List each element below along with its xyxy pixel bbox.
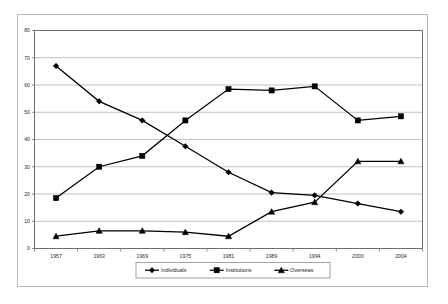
data-point-marker <box>226 86 231 91</box>
series-individuals <box>53 63 403 214</box>
chart-legend: IndividualsInstitutionsOverseas <box>136 263 330 279</box>
series-layer <box>53 63 404 239</box>
data-point-marker <box>312 84 317 89</box>
y-tick-label: 0 <box>27 245 30 251</box>
y-tick-label: 50 <box>24 109 30 115</box>
data-point-marker <box>214 268 219 273</box>
data-point-marker <box>139 118 145 124</box>
series-institutions <box>53 84 403 201</box>
line-chart: 01020304050607080 1957196319691975198119… <box>0 0 448 304</box>
data-point-marker <box>226 169 232 175</box>
x-tick-label: 1981 <box>223 253 235 259</box>
legend-item-institutions[interactable]: Institutions <box>210 267 252 273</box>
x-tick-label: 1969 <box>137 253 149 259</box>
data-point-marker <box>355 118 360 123</box>
x-tick-label: 1957 <box>50 253 62 259</box>
data-point-marker <box>398 114 403 119</box>
chart-figure: 01020304050607080 1957196319691975198119… <box>0 0 448 304</box>
legend-item-individuals[interactable]: Individuals <box>145 267 187 273</box>
legend-label: Institutions <box>226 267 252 273</box>
x-tick-label: 2000 <box>352 253 364 259</box>
data-point-marker <box>269 88 274 93</box>
y-tick-label: 30 <box>24 164 30 170</box>
data-point-marker <box>53 195 58 200</box>
y-tick-label: 70 <box>24 55 30 61</box>
data-point-marker <box>398 209 404 215</box>
y-axis-tick-labels: 01020304050607080 <box>24 27 30 251</box>
x-tick-label: 1963 <box>93 253 105 259</box>
data-point-marker <box>355 201 361 207</box>
legend-label: Individuals <box>161 267 187 273</box>
series-line <box>56 86 401 198</box>
y-tick-label: 40 <box>24 136 30 142</box>
x-tick-label: 1994 <box>309 253 321 259</box>
legend-label: Overseas <box>290 267 313 273</box>
data-point-marker <box>140 153 145 158</box>
y-tick-label: 60 <box>24 82 30 88</box>
data-point-marker <box>183 118 188 123</box>
data-point-marker <box>312 193 318 199</box>
y-tick-label: 80 <box>24 27 30 33</box>
x-tick-label: 1975 <box>180 253 192 259</box>
gridlines <box>32 31 423 249</box>
data-point-marker <box>183 144 189 150</box>
x-tick-label: 1989 <box>266 253 278 259</box>
data-point-marker <box>269 190 275 196</box>
x-tick-label: 2004 <box>395 253 407 259</box>
data-point-marker <box>97 164 102 169</box>
y-tick-label: 10 <box>24 218 30 224</box>
plot-wrapper: 01020304050607080 1957196319691975198119… <box>0 0 448 304</box>
x-axis-tick-labels: 195719631969197519811989199420002004 <box>50 253 407 259</box>
y-tick-label: 20 <box>24 191 30 197</box>
